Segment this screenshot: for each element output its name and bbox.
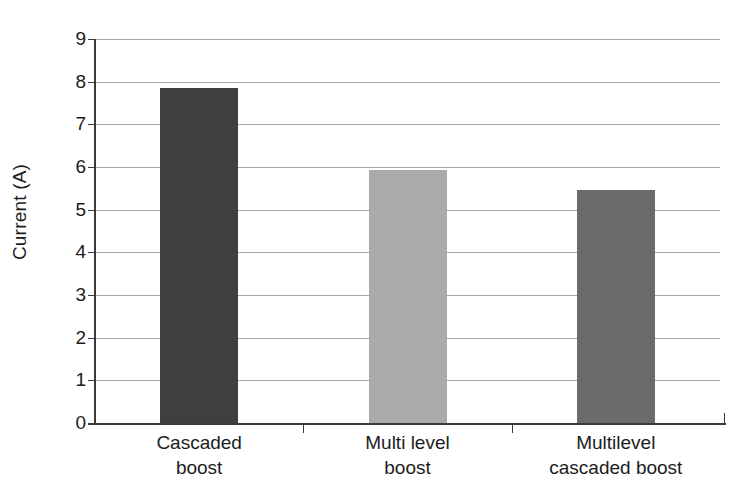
x-axis-category-labels: CascadedboostMulti levelboostMultilevelc… xyxy=(95,430,720,500)
x-axis-line xyxy=(88,423,726,425)
x-axis-category-label-line1: Multilevel xyxy=(576,432,655,453)
x-axis-separator-tick xyxy=(303,423,304,433)
x-axis-category-label: Multi levelboost xyxy=(303,430,511,500)
y-axis-tick-label: 2 xyxy=(44,327,86,349)
plot-area xyxy=(95,39,720,423)
y-axis-top-tick xyxy=(88,39,95,40)
y-axis-tick-labels: 9876543210 xyxy=(44,0,86,500)
x-axis-separator-tick xyxy=(512,423,513,433)
y-axis-tick-label: 3 xyxy=(44,284,86,306)
bar[interactable] xyxy=(160,88,238,423)
y-axis-title: Current (A) xyxy=(0,0,40,423)
y-axis-line xyxy=(94,39,96,424)
x-axis-category-label-line2: boost xyxy=(95,455,303,480)
x-axis-category-label: Multilevelcascaded boost xyxy=(512,430,720,500)
y-axis-tick-label: 9 xyxy=(44,28,86,50)
x-axis-end-tick xyxy=(724,413,725,424)
y-axis-tick-label: 4 xyxy=(44,241,86,263)
gridline xyxy=(95,39,720,40)
y-axis-tick-label: 1 xyxy=(44,369,86,391)
y-axis-tick-label: 6 xyxy=(44,156,86,178)
y-axis-tick-label: 8 xyxy=(44,71,86,93)
x-axis-category-label-line1: Cascaded xyxy=(156,432,242,453)
x-axis-category-label-line1: Multi level xyxy=(365,432,449,453)
y-axis-tick-label: 0 xyxy=(44,412,86,434)
bar[interactable] xyxy=(577,190,655,423)
gridline xyxy=(95,82,720,83)
bar-chart: Current (A) 9876543210 CascadedboostMult… xyxy=(0,0,755,500)
y-axis-tick-label: 7 xyxy=(44,113,86,135)
bar[interactable] xyxy=(369,170,447,423)
x-axis-category-label-line2: cascaded boost xyxy=(512,455,720,480)
x-axis-category-label-line2: boost xyxy=(303,455,511,480)
y-axis-tick-label: 5 xyxy=(44,199,86,221)
x-axis-category-label: Cascadedboost xyxy=(95,430,303,500)
y-axis-title-text: Current (A) xyxy=(9,163,31,259)
